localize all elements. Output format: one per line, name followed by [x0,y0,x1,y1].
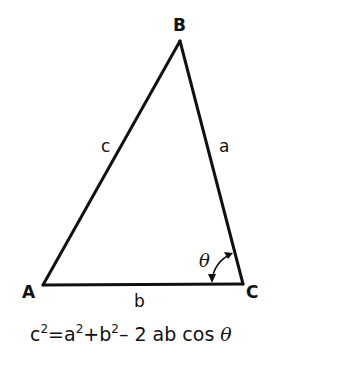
formula-lhs: c [30,323,40,345]
triangle-diagram [0,0,344,368]
vertex-label-a: A [22,284,35,301]
side-label-c: c [101,138,110,155]
formula-theta: θ [220,323,231,345]
vertex-label-c: C [246,284,258,301]
side-a-line [180,41,243,284]
formula-lhs-exp: 2 [40,322,48,336]
formula-eq: = [48,323,64,345]
side-b-line [43,284,243,285]
angle-label-theta: θ [199,252,210,270]
law-of-cosines-formula: c2=a2+b2– 2 ab cos θ [30,322,232,345]
formula-t2-exp: 2 [111,322,119,336]
vertex-label-b: B [173,17,186,34]
side-c-line [43,41,180,285]
formula-t2: b [99,323,111,345]
side-label-a: a [219,138,229,155]
side-label-b: b [134,293,145,310]
arc-arrowhead-bottom [208,274,216,283]
formula-t1: a [64,323,76,345]
formula-plus: + [83,323,99,345]
formula-rest: – 2 ab cos [119,323,220,345]
